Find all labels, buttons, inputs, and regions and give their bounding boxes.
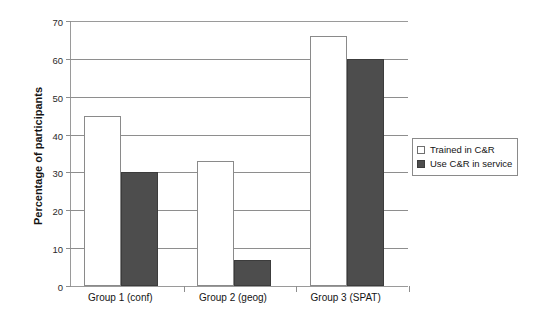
y-tick-0 bbox=[66, 286, 71, 287]
bar-trained-group-1 bbox=[84, 116, 121, 286]
legend-item-use: Use C&R in service bbox=[417, 157, 512, 171]
bar-trained-group-3 bbox=[310, 36, 347, 286]
x-axis-label-group-2: Group 2 (geog) bbox=[199, 292, 267, 303]
x-tick-1 bbox=[184, 286, 185, 292]
y-tick-70 bbox=[66, 21, 71, 22]
y-tick-label-60: 60 bbox=[52, 54, 63, 65]
y-axis-title: Percentage of participants bbox=[32, 56, 44, 256]
x-axis-label-group-3: Group 3 (SPAT) bbox=[311, 292, 381, 303]
legend-swatch-light-icon bbox=[417, 146, 425, 154]
chart-legend: Trained in C&R Use C&R in service bbox=[412, 138, 518, 176]
bar-use-group-2 bbox=[234, 260, 271, 287]
bar-use-group-1 bbox=[121, 172, 158, 286]
y-tick-10 bbox=[66, 248, 71, 249]
legend-swatch-dark-icon bbox=[417, 160, 425, 168]
y-tick-50 bbox=[66, 97, 71, 98]
y-tick-label-30: 30 bbox=[52, 168, 63, 179]
gridline-70 bbox=[71, 21, 408, 22]
y-tick-label-10: 10 bbox=[52, 244, 63, 255]
plot-area: 010203040506070 bbox=[70, 22, 408, 287]
x-tick-2 bbox=[296, 286, 297, 292]
y-tick-label-70: 70 bbox=[52, 17, 63, 28]
y-tick-label-50: 50 bbox=[52, 92, 63, 103]
bar-chart: Percentage of participants 0102030405060… bbox=[0, 0, 536, 321]
bar-trained-group-2 bbox=[197, 161, 234, 286]
y-tick-20 bbox=[66, 210, 71, 211]
y-tick-label-0: 0 bbox=[58, 282, 63, 293]
legend-label-trained: Trained in C&R bbox=[430, 145, 495, 155]
legend-item-trained: Trained in C&R bbox=[417, 143, 512, 157]
y-tick-30 bbox=[66, 172, 71, 173]
legend-label-use: Use C&R in service bbox=[430, 159, 512, 169]
x-tick-3 bbox=[409, 286, 410, 292]
y-tick-60 bbox=[66, 59, 71, 60]
x-axis-label-group-1: Group 1 (conf) bbox=[88, 292, 152, 303]
y-tick-label-20: 20 bbox=[52, 206, 63, 217]
y-tick-40 bbox=[66, 135, 71, 136]
y-tick-label-40: 40 bbox=[52, 130, 63, 141]
bar-use-group-3 bbox=[347, 59, 384, 286]
